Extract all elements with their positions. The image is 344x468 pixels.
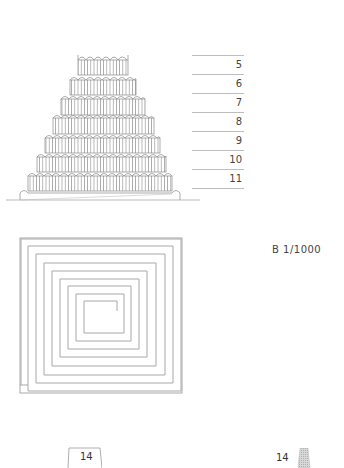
level-label: 5 [236,59,242,70]
page-number: 14 [276,452,289,463]
ziggurat-elevation-drawing [0,0,344,215]
level-row-8: 8 [192,112,244,132]
hatched-swatch-icon [297,448,311,468]
page-tab-number: 14 [80,451,93,462]
level-row-bottom-rule [192,188,244,189]
level-label: 8 [236,116,242,127]
level-label: 11 [229,173,242,184]
level-row-9: 9 [192,131,244,151]
level-label: 6 [236,78,242,89]
level-row-7: 7 [192,93,244,113]
scale-label: B 1/1000 [272,244,321,255]
level-row-11: 11 [192,169,244,189]
level-row-10: 10 [192,150,244,170]
level-label: 10 [229,154,242,165]
level-label: 9 [236,135,242,146]
level-label: 7 [236,97,242,108]
level-row-6: 6 [192,74,244,94]
level-row-5: 5 [192,55,244,75]
spiral-plan-drawing [0,225,200,405]
